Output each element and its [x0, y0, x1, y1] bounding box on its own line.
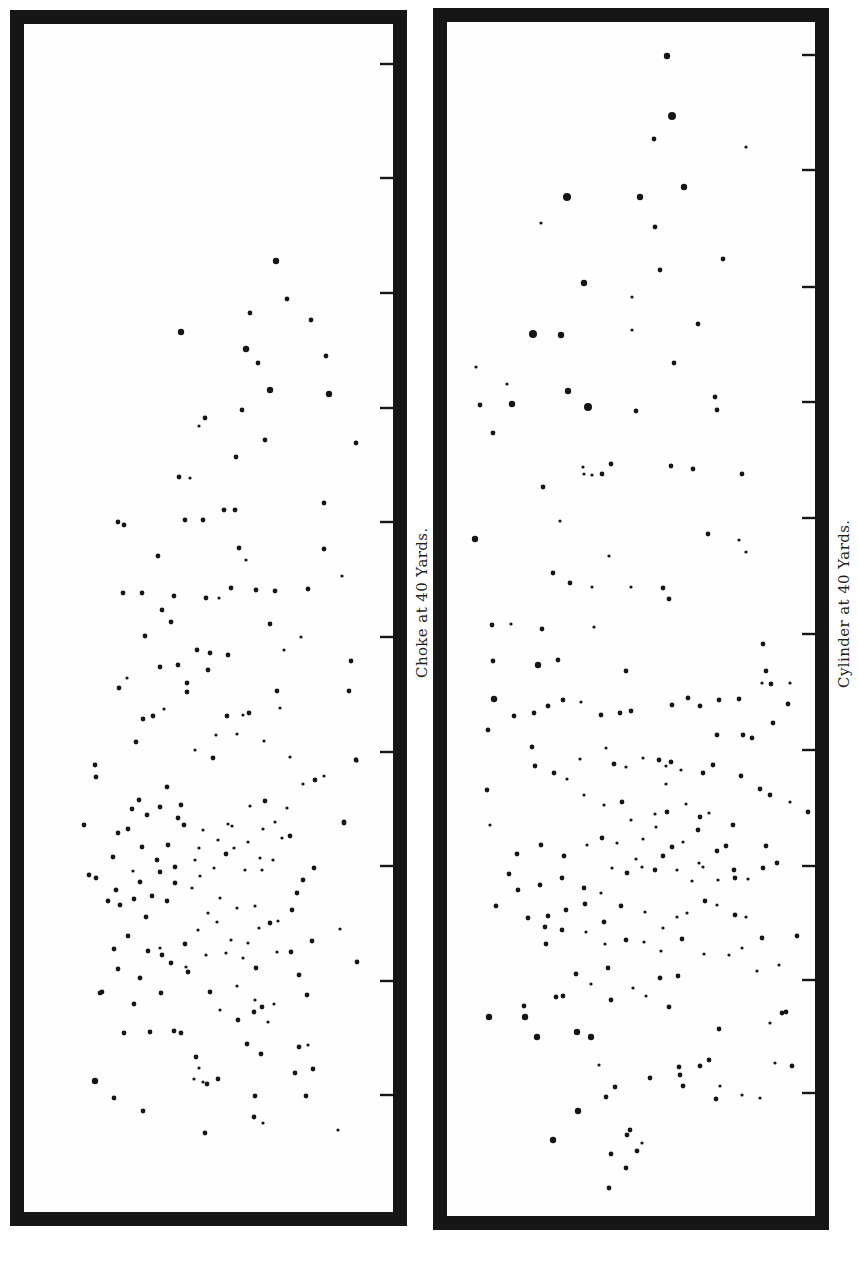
pellet-hole	[172, 1029, 177, 1034]
pellet-hole	[116, 967, 121, 972]
pellet-hole	[248, 804, 251, 807]
pellet-hole	[784, 1010, 789, 1015]
pellet-hole	[241, 956, 244, 959]
pellet-hole	[253, 904, 256, 907]
pellet-hole	[540, 627, 545, 632]
pellet-hole	[684, 802, 687, 805]
pellet-hole	[241, 713, 244, 716]
pellet-hole	[169, 961, 174, 966]
scale-ticks-cylinder	[802, 55, 815, 1093]
pellet-hole	[272, 1002, 275, 1005]
pellet-hole	[715, 903, 718, 906]
caption-choke: Choke at 40 Yards.	[413, 527, 431, 678]
pellet-hole	[667, 1005, 672, 1010]
pellet-hole	[582, 886, 587, 891]
pellet-hole	[94, 876, 99, 881]
pellet-hole	[707, 1058, 712, 1063]
pellet-hole	[92, 1078, 98, 1084]
pellet-hole	[795, 934, 800, 939]
caption-cylinder: Cylinder at 40 Yards.	[835, 519, 853, 688]
pellet-hole	[299, 635, 302, 638]
pellet-hole	[143, 634, 148, 639]
pellet-hole	[259, 1052, 264, 1057]
pellet-hole	[613, 1085, 618, 1090]
pellet-hole	[208, 651, 213, 656]
pellet-hole	[760, 936, 765, 941]
pellet-hole	[821, 836, 826, 841]
pellet-hole	[612, 762, 617, 767]
pellet-hole	[188, 476, 191, 479]
pellet-hole	[620, 800, 625, 805]
pellet-hole	[268, 622, 273, 627]
pellet-hole	[675, 868, 678, 871]
pellet-hole	[224, 951, 227, 954]
pellet-hole	[788, 800, 791, 803]
pellet-hole	[609, 1152, 614, 1157]
pellet-hole	[144, 915, 149, 920]
pellet-hole	[201, 828, 204, 831]
pellet-hole	[698, 815, 703, 820]
pellet-hole	[193, 858, 196, 861]
pellet-hole	[657, 758, 662, 763]
pellet-hole	[111, 855, 116, 860]
pellet-hole	[301, 782, 304, 785]
pellet-hole	[539, 221, 542, 224]
pellet-hole	[685, 911, 688, 914]
pellet-hole	[235, 732, 238, 735]
pellet-hole	[560, 876, 565, 881]
pellet-hole	[322, 501, 327, 506]
pellet-hole	[538, 883, 543, 888]
pellet-hole	[780, 1011, 785, 1016]
pellet-hole	[706, 532, 711, 537]
pellet-hole	[744, 550, 747, 553]
pellet-hole	[698, 704, 703, 709]
pellet-hole	[288, 755, 291, 758]
pellet-hole	[173, 881, 178, 886]
pellet-hole	[233, 508, 238, 513]
pellet-hole	[583, 902, 588, 907]
pellet-hole	[697, 861, 700, 864]
pellet-hole	[354, 441, 359, 446]
pellet-hole	[112, 1096, 117, 1101]
pellet-hole	[661, 926, 664, 929]
pellet-hole	[750, 736, 755, 741]
pellet-hole	[541, 485, 546, 490]
pellet-hole	[512, 714, 517, 719]
pellet-hole	[225, 714, 230, 719]
pellet-hole	[516, 888, 521, 893]
pellet-hole	[630, 295, 633, 298]
pellet-hole	[574, 972, 579, 977]
pellet-hole	[159, 991, 164, 996]
pellet-hole	[311, 1067, 316, 1072]
pellet-hole	[285, 806, 288, 809]
pellet-hole	[173, 865, 178, 870]
pellet-hole	[732, 868, 737, 873]
pellet-hole	[166, 843, 171, 848]
pellet-hole	[347, 689, 352, 694]
pellet-hole	[340, 574, 343, 577]
pellet-hole	[721, 257, 726, 262]
pellet-hole	[604, 746, 607, 749]
pellet-hole	[240, 408, 245, 413]
pellet-hole	[195, 648, 200, 653]
pellet-hole	[713, 395, 718, 400]
pellet-hole	[769, 682, 774, 687]
pellet-hole	[289, 950, 294, 955]
pellet-hole	[98, 991, 103, 996]
pellet-hole	[229, 938, 232, 941]
pellet-hole	[561, 994, 566, 999]
pellet-hole	[539, 843, 544, 848]
pellet-hole	[509, 622, 512, 625]
pellet-hole	[266, 1020, 269, 1023]
pellet-hole	[297, 973, 302, 978]
pellet-hole	[198, 874, 201, 877]
pellet-hole	[644, 994, 647, 997]
pellet-hole	[590, 585, 593, 588]
pellet-hole	[130, 807, 135, 812]
pellet-hole	[678, 1073, 683, 1078]
pellet-hole	[546, 704, 551, 709]
pellet-hole	[575, 1108, 581, 1114]
pellet-hole	[246, 840, 249, 843]
pellet-hole	[172, 594, 177, 599]
pellet-hole	[229, 586, 234, 591]
